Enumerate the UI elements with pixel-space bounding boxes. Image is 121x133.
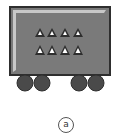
wheel-1	[17, 75, 33, 91]
wheel-2	[34, 75, 50, 91]
wheels	[17, 75, 104, 91]
wagon-diagram	[0, 0, 121, 100]
wheel-4	[88, 75, 104, 91]
figure-label-text: a	[63, 119, 69, 129]
wagon-body	[10, 7, 110, 75]
figure-label: a	[58, 117, 74, 133]
wheel-3	[71, 75, 87, 91]
